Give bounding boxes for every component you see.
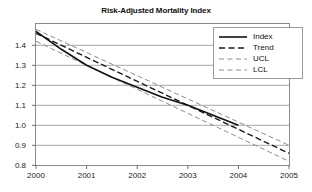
legend-swatch-dashed-light-line-icon-ucl: [218, 54, 248, 64]
y-tick-label-0.8: 0.8: [2, 161, 26, 170]
chart-container: Risk-Adjusted Mortality Index: [0, 0, 312, 192]
y-tick-label-1.0: 1.0: [2, 121, 26, 130]
y-tick-label-1.4: 1.4: [2, 41, 26, 50]
legend-item-index[interactable]: Index: [218, 31, 298, 42]
x-tick-label-2004: 2004: [221, 171, 255, 180]
legend-label-ucl: UCL: [253, 54, 269, 64]
chart-legend: Index Trend UCL LCL: [213, 27, 303, 79]
x-axis-ticks: [36, 166, 289, 170]
x-tick-label-2005: 2005: [272, 171, 306, 180]
x-tick-label-2001: 2001: [70, 171, 104, 180]
y-tick-label-1.2: 1.2: [2, 81, 26, 90]
legend-label-trend: Trend: [253, 43, 274, 53]
x-tick-label-2003: 2003: [171, 171, 205, 180]
legend-item-trend[interactable]: Trend: [218, 42, 298, 53]
legend-swatch-dashed-light-line-icon-lcl: [218, 65, 248, 75]
legend-swatch-dashed-line-icon: [218, 43, 248, 53]
legend-label-index: Index: [253, 32, 273, 42]
legend-label-lcl: LCL: [253, 65, 268, 75]
y-tick-label-0.9: 0.9: [2, 141, 26, 150]
x-tick-label-2002: 2002: [120, 171, 154, 180]
legend-item-lcl[interactable]: LCL: [218, 64, 298, 75]
y-tick-label-1.3: 1.3: [2, 61, 26, 70]
x-tick-label-2000: 2000: [19, 171, 53, 180]
legend-swatch-solid-line-icon: [218, 32, 248, 42]
y-tick-label-1.1: 1.1: [2, 101, 26, 110]
legend-item-ucl[interactable]: UCL: [218, 53, 298, 64]
